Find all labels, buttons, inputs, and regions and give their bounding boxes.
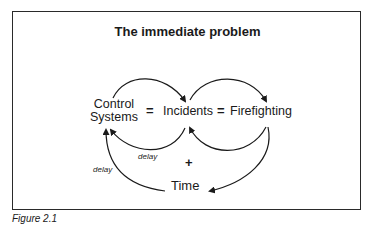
arrow-incidents-to-control bbox=[111, 128, 185, 150]
figure-caption: Figure 2.1 bbox=[12, 213, 57, 224]
node-control-systems-label: Control Systems bbox=[90, 97, 138, 124]
arrow-incidents-to-firefighting bbox=[190, 79, 266, 101]
delay-label-inner: delay bbox=[138, 152, 157, 161]
node-control-systems: Control Systems bbox=[86, 98, 142, 124]
node-firefighting: Firefighting bbox=[230, 105, 292, 118]
equals-sign-1: = bbox=[146, 103, 154, 118]
arrow-firefighting-to-incidents bbox=[190, 127, 266, 150]
loop-polarity-plus: + bbox=[185, 155, 193, 170]
node-incidents: Incidents bbox=[163, 105, 213, 118]
arrow-firefighting-to-time bbox=[210, 127, 269, 191]
equals-sign-2: = bbox=[217, 103, 225, 118]
delay-label-outer: delay bbox=[93, 165, 112, 174]
node-time: Time bbox=[171, 179, 199, 192]
